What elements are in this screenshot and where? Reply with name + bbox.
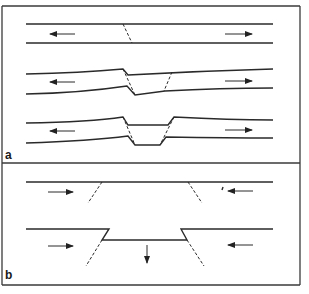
fault-line bbox=[187, 240, 204, 266]
fault-line bbox=[188, 182, 202, 203]
panel-b-stage-2 bbox=[26, 229, 273, 266]
panel-a-stage-2 bbox=[26, 69, 273, 95]
panel-b-stage-1 bbox=[26, 182, 273, 203]
fault-line bbox=[123, 24, 132, 43]
panel-a-stage-1 bbox=[26, 24, 273, 43]
panel-label-a: a bbox=[5, 148, 12, 162]
fault-line bbox=[160, 117, 174, 145]
fault-line bbox=[123, 69, 135, 95]
tick-mark bbox=[222, 187, 223, 190]
fault-line bbox=[86, 240, 102, 266]
fault-line bbox=[164, 72, 172, 91]
fault-line bbox=[88, 182, 102, 203]
fault-diagram bbox=[0, 0, 309, 294]
panel-a-stage-3 bbox=[26, 117, 273, 145]
panel-b bbox=[26, 182, 273, 266]
panel-a bbox=[26, 24, 273, 145]
panel-label-b: b bbox=[5, 268, 12, 282]
